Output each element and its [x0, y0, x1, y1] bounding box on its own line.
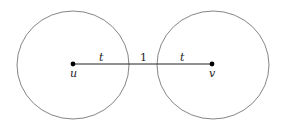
label-left-radius: t [99, 51, 104, 64]
label-right-radius: t [180, 51, 185, 64]
label-v: v [209, 67, 216, 80]
label-u: u [70, 67, 77, 80]
point-v [210, 62, 215, 67]
two-circles-diagram: u v t 1 t [0, 0, 282, 126]
label-gap: 1 [140, 51, 147, 64]
point-u [71, 62, 76, 67]
